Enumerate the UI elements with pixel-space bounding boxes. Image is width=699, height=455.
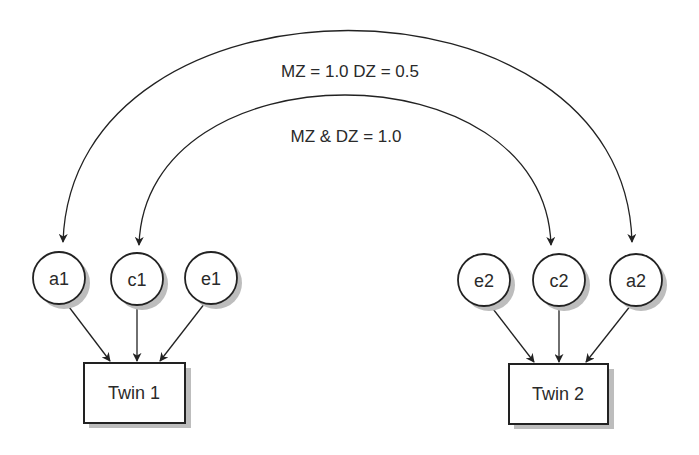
ace-twin-model-diagram: MZ = 1.0 DZ = 0.5 MZ & DZ = 1.0 a1 c1 e1… xyxy=(0,0,699,455)
latent-factor-e2: e2 xyxy=(458,254,515,311)
latent-factor-e1: e1 xyxy=(185,252,242,309)
latent-factor-a2: a2 xyxy=(610,254,667,311)
arc-label-common-environment: MZ & DZ = 1.0 xyxy=(291,127,402,146)
box-label-twin2: Twin 2 xyxy=(532,384,584,404)
node-label-a2: a2 xyxy=(626,271,646,291)
double-headed-arrow-icon xyxy=(139,95,551,245)
path-arrow-a2-icon xyxy=(586,305,631,362)
latent-factor-c2: c2 xyxy=(533,254,590,311)
path-arrow-e1-icon xyxy=(160,303,205,361)
node-label-c1: c1 xyxy=(127,270,146,290)
path-arrow-e2-icon xyxy=(490,305,534,362)
correlation-arc-common-environment: MZ & DZ = 1.0 xyxy=(139,95,551,245)
observed-twin2-box: Twin 2 xyxy=(509,364,614,429)
node-label-e2: e2 xyxy=(474,271,494,291)
latent-factor-c1: c1 xyxy=(111,253,168,310)
twin1-paths xyxy=(66,303,205,361)
latent-factor-a1: a1 xyxy=(33,252,90,309)
node-label-e1: e1 xyxy=(201,269,221,289)
twin2-paths xyxy=(490,305,631,362)
box-label-twin1: Twin 1 xyxy=(108,383,160,403)
observed-twin1-box: Twin 1 xyxy=(84,363,191,428)
arc-label-additive-genetic: MZ = 1.0 DZ = 0.5 xyxy=(281,62,419,81)
path-arrow-a1-icon xyxy=(66,303,110,361)
node-label-a1: a1 xyxy=(49,269,69,289)
node-label-c2: c2 xyxy=(549,271,568,291)
